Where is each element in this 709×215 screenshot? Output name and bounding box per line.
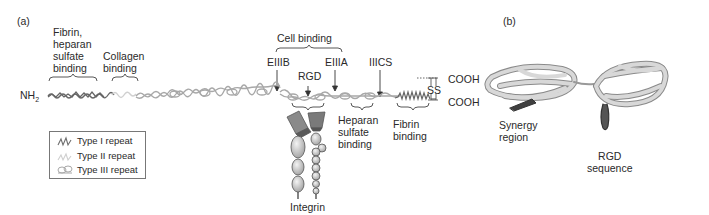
type-i-repeat-icon [57, 135, 73, 147]
brace-heparan [351, 103, 373, 110]
brace-fibrin [397, 103, 429, 110]
n-terminus-text: NH [20, 89, 35, 101]
integrin [287, 111, 326, 199]
panel-b-label: (b) [503, 15, 516, 27]
legend-label: Type III repeat [77, 164, 138, 175]
c-terminus-bottom: COOH [448, 96, 480, 108]
n-terminus: NH2 [20, 89, 39, 106]
legend-item-type-i: Type I repeat [50, 134, 145, 148]
region-label-heparan: Heparan sulfate binding [338, 114, 378, 150]
region-label-fibrin-heparan: Fibrin, heparan sulfate binding [53, 26, 92, 74]
brace-fibrin-heparan [49, 74, 97, 81]
legend: Type I repeat Type II repeat Type III re… [49, 131, 146, 179]
integrin-label: Integrin [290, 201, 325, 213]
marker-eiiib: EIIIB [267, 56, 290, 68]
region-label-fibrin: Fibrin binding [393, 118, 427, 142]
chain-type-iii-1 [136, 82, 280, 98]
brace-collagen [112, 74, 138, 81]
legend-label: Type I repeat [77, 135, 132, 146]
chain-type-iii-2 [280, 90, 400, 100]
chain-type-ii [112, 92, 136, 97]
type-iii-repeat-icon [57, 164, 73, 176]
legend-label: Type II repeat [77, 150, 135, 161]
marker-eiiia: EIIIA [325, 56, 348, 68]
panel-a-label: (a) [17, 15, 30, 27]
chain-type-i-n [48, 92, 114, 98]
c-terminus-top: COOH [448, 73, 480, 85]
fibronectin-diagram [0, 0, 709, 215]
marker-rgd: RGD [298, 70, 321, 82]
disulfide-label: SS [427, 84, 441, 96]
region-label-collagen: Collagen binding [103, 50, 144, 74]
region-label-cell-binding: Cell binding [277, 32, 332, 44]
brace-rgd-integrin [292, 103, 324, 110]
legend-item-type-iii: Type III repeat [50, 163, 145, 177]
rgd-sequence-label: RGD sequence [587, 150, 633, 174]
synergy-region-label: Synergy region [499, 119, 538, 143]
legend-item-type-ii: Type II repeat [50, 149, 145, 163]
n-terminus-subscript: 2 [35, 96, 39, 103]
brace-cell-binding [276, 45, 342, 52]
type-ii-repeat-icon [57, 150, 73, 162]
marker-iiics: IIICS [369, 56, 392, 68]
